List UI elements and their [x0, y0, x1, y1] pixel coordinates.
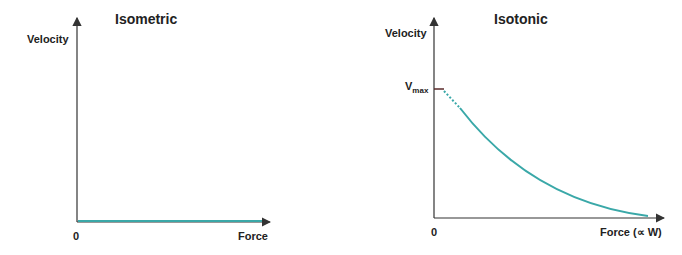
isometric-axes: [77, 18, 270, 222]
vmax-label: Vmax: [405, 80, 428, 95]
isotonic-title: Isotonic: [494, 11, 548, 27]
isometric-title: Isometric: [115, 11, 177, 27]
isometric-xlabel: Force: [238, 230, 268, 242]
isotonic-origin: 0: [431, 226, 437, 238]
isotonic-axes: [434, 18, 664, 218]
isotonic-ylabel: Velocity: [385, 27, 427, 39]
isotonic-xlabel: Force (∝ W): [600, 226, 662, 239]
isotonic-curve: [460, 108, 648, 216]
isometric-origin: 0: [73, 230, 79, 242]
isometric-ylabel: Velocity: [27, 33, 69, 45]
diagram-canvas: [0, 0, 682, 255]
isotonic-curve-dotted: [444, 91, 460, 108]
